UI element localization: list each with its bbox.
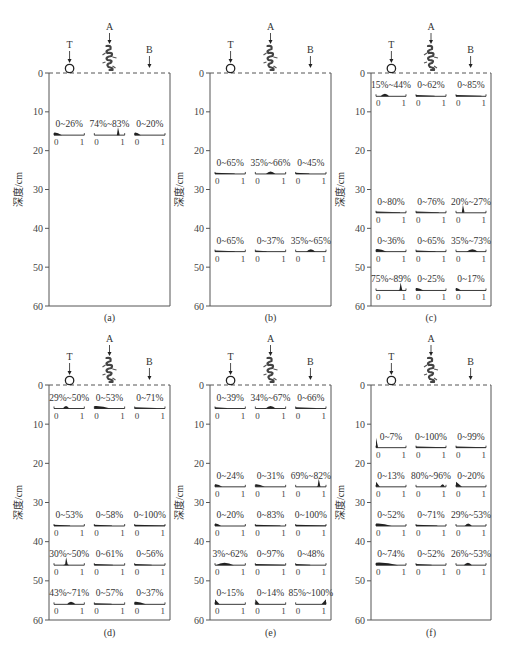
circle-marker-icon (65, 376, 73, 384)
sub-axis-max: 1 (241, 254, 246, 264)
sub-axis-max: 1 (161, 528, 166, 538)
distribution-shape (216, 563, 234, 566)
arrow-head-icon (68, 371, 72, 375)
sub-axis-min: 0 (255, 528, 260, 538)
circle-marker-icon (226, 376, 234, 384)
marker-label-A: A (267, 21, 275, 32)
range-label: 0~15% (217, 588, 244, 598)
range-label: 0~20% (217, 510, 244, 520)
panel-frame (210, 385, 331, 620)
sub-axis-min: 0 (296, 567, 301, 577)
range-label: 35%~65% (291, 236, 331, 246)
sub-axis-min: 0 (296, 176, 301, 186)
sub-axis-max: 1 (281, 254, 286, 264)
distribution-shape (215, 173, 235, 174)
distribution-cell-A: 0~14%01 (255, 588, 285, 616)
range-label: 0~26% (56, 119, 83, 129)
sub-axis-min: 0 (255, 489, 260, 499)
distribution-cell-B: 29%~53%01 (451, 510, 491, 538)
distribution-cell-T: 3%~62%01 (213, 549, 248, 577)
y-axis-label: 深度/cm (334, 172, 346, 207)
plant-icon (268, 46, 274, 70)
plant-marker-A: A (424, 333, 438, 382)
y-tick-label: 10 (33, 106, 43, 117)
marker-label-T: T (67, 39, 73, 50)
sub-axis-max: 1 (80, 411, 85, 421)
distribution-shape (215, 523, 221, 526)
sub-axis-max: 1 (482, 450, 487, 460)
sub-axis-min: 0 (416, 215, 421, 225)
marker-label-T: T (388, 351, 394, 362)
sub-axis-max: 1 (482, 528, 487, 538)
distribution-shape (376, 249, 387, 252)
range-label: 0~61% (96, 549, 123, 559)
range-label: 0~17% (457, 274, 484, 284)
range-label: 0~14% (257, 588, 284, 598)
range-label: 0~57% (96, 588, 123, 598)
distribution-shape (67, 602, 75, 605)
sub-axis-max: 1 (241, 606, 246, 616)
sub-axis-max: 1 (402, 98, 407, 108)
sub-axis-max: 1 (442, 254, 447, 264)
marker-label-B: B (307, 44, 314, 55)
distribution-shape (135, 133, 141, 136)
y-tick-label: 30 (33, 184, 43, 195)
distribution-shape (135, 407, 157, 408)
arrow-head-icon (68, 59, 72, 63)
range-label: 35%~73% (451, 236, 491, 246)
plant-marker-A: A (103, 333, 117, 382)
sub-axis-max: 1 (402, 567, 407, 577)
range-label: 0~65% (217, 158, 244, 168)
sub-axis-max: 1 (322, 411, 327, 421)
distribution-cell-T: 0~65%01 (215, 158, 245, 186)
plant-icon (107, 358, 113, 382)
distribution-shape (296, 525, 326, 526)
y-tick-label: 40 (355, 536, 365, 547)
sub-axis-min: 0 (215, 489, 220, 499)
range-label: 0~100% (415, 432, 447, 442)
plant-marker-A: A (264, 333, 278, 382)
sub-axis-max: 1 (322, 176, 327, 186)
sub-axis-max: 1 (482, 567, 487, 577)
range-label: 0~80% (377, 197, 404, 207)
sub-axis-max: 1 (281, 606, 286, 616)
sub-axis-min: 0 (54, 411, 59, 421)
y-tick-label: 50 (355, 262, 365, 273)
marker-label-B: B (467, 356, 474, 367)
range-label: 34%~67% (251, 393, 291, 403)
arrow-head-icon (308, 376, 312, 380)
distribution-cell-B: 0~66%01 (296, 393, 326, 421)
range-label: 0~65% (217, 236, 244, 246)
y-tick-label: 0 (199, 380, 204, 391)
distribution-cell-A: 0~100%01 (415, 432, 447, 460)
distribution-shape (440, 484, 445, 487)
sub-axis-max: 1 (161, 567, 166, 577)
distribution-shape (416, 212, 439, 213)
sub-axis-max: 1 (322, 606, 327, 616)
marker-label-A: A (106, 21, 114, 32)
sub-axis-min: 0 (255, 411, 260, 421)
sub-axis-min: 0 (255, 176, 260, 186)
distribution-cell-T: 0~26%01 (54, 119, 84, 147)
distribution-cell-T: 29%~50%01 (49, 393, 89, 421)
y-tick-label: 50 (33, 575, 43, 586)
sub-axis-max: 1 (281, 528, 286, 538)
y-axis-label: 深度/cm (173, 485, 185, 520)
sub-axis-max: 1 (442, 528, 447, 538)
y-tick-label: 40 (33, 223, 43, 234)
sub-axis-min: 0 (215, 411, 220, 421)
range-label: 0~37% (257, 236, 284, 246)
y-tick-label: 40 (194, 536, 204, 547)
sub-axis-min: 0 (54, 137, 59, 147)
y-tick-label: 20 (194, 458, 204, 469)
sub-axis-min: 0 (296, 411, 301, 421)
range-label: 0~45% (297, 158, 324, 168)
sub-axis-min: 0 (296, 489, 301, 499)
range-label: 0~52% (417, 549, 444, 559)
distribution-shape (215, 599, 220, 604)
panel-e: 0102030405060深度/cm(e)TAB0~39%0134%~67%01… (173, 333, 333, 639)
distribution-cell-T: 15%~44%01 (371, 80, 411, 108)
distribution-cell-A: 0~62%01 (416, 80, 446, 108)
range-label: 0~53% (56, 510, 83, 520)
range-label: 0~56% (136, 549, 163, 559)
